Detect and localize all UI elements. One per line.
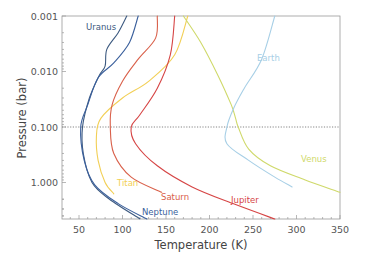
y-tick-label: 0.001 bbox=[31, 11, 58, 22]
x-axis-title: Temperature (K) bbox=[153, 238, 247, 252]
earth-curve bbox=[225, 16, 292, 187]
y-tick-label: 0.010 bbox=[31, 66, 58, 77]
y-tick-label: 0.100 bbox=[31, 122, 58, 133]
x-tick-label: 150 bbox=[157, 224, 175, 235]
neptune-curve bbox=[81, 16, 147, 219]
temperature-pressure-chart: 0.001 0.010 0.100 1.000 50 100 150 200 2… bbox=[0, 0, 366, 257]
x-axis-ticks bbox=[70, 215, 340, 219]
x-tick-label: 50 bbox=[73, 224, 85, 235]
x-tick-label: 250 bbox=[244, 224, 262, 235]
x-tick-label: 200 bbox=[200, 224, 218, 235]
titan-curve bbox=[96, 16, 188, 194]
titan-label: Titan bbox=[116, 178, 138, 188]
y-axis-title: Pressure (bar) bbox=[15, 78, 29, 159]
saturn-label: Saturn bbox=[161, 192, 189, 202]
y-axis-ticks bbox=[62, 16, 66, 216]
x-tick-label: 300 bbox=[287, 224, 305, 235]
jupiter-label: Jupiter bbox=[230, 195, 259, 205]
earth-label: Earth bbox=[257, 53, 280, 63]
venus-curve bbox=[183, 16, 340, 192]
uranus-curve bbox=[82, 16, 140, 219]
saturn-curve bbox=[110, 16, 162, 192]
venus-label: Venus bbox=[301, 154, 327, 164]
y-tick-label: 1.000 bbox=[31, 177, 58, 188]
plot-frame bbox=[62, 16, 340, 219]
series-lines bbox=[81, 16, 340, 219]
x-tick-label: 100 bbox=[113, 224, 131, 235]
uranus-label: Uranus bbox=[86, 22, 117, 32]
neptune-label: Neptune bbox=[142, 207, 178, 217]
x-tick-label: 350 bbox=[331, 224, 349, 235]
